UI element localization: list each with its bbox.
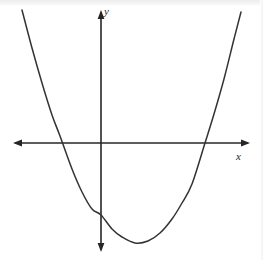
x-axis-label: x: [236, 151, 241, 162]
y-axis-label: y: [104, 6, 109, 17]
x-axis: [13, 140, 250, 147]
parabola-curve: [22, 10, 241, 243]
y-axis-arrow-bottom-icon: [98, 243, 105, 252]
x-axis-arrow-right-icon: [241, 140, 250, 147]
parabola-figure: x y: [0, 0, 263, 260]
x-axis-arrow-left-icon: [13, 140, 22, 147]
plot-canvas: [0, 0, 263, 260]
